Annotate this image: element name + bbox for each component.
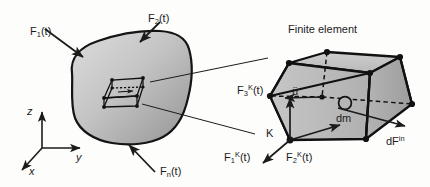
inertial-force-label: dFin: [386, 135, 405, 147]
finite-element-figure: F1(t) F2(t) Fn(t) Finite element F3K(t) …: [0, 0, 430, 187]
axis-label-x: x: [29, 166, 35, 177]
finite-element-caption: Finite element: [288, 24, 357, 35]
force-label-F1: F1(t): [30, 26, 51, 38]
mass-element-label: dm: [336, 113, 351, 124]
acceleration-vector: [285, 97, 322, 98]
axis-label-y: y: [76, 152, 82, 163]
body-outline: [72, 31, 192, 145]
nodal-force-label-F3K: F3K(t): [237, 84, 263, 98]
figure-canvas: [0, 0, 430, 187]
force-label-F2: F2(t): [148, 13, 169, 25]
nodal-force-label-F1K: F1K(t): [224, 151, 250, 165]
nodal-force-label-F2K: F2K(t): [286, 151, 312, 165]
force-label-Fn: Fn(t): [160, 166, 181, 178]
coordinate-axes: [22, 112, 80, 170]
acceleration-label: ü: [292, 86, 298, 97]
mass-element-marker: [339, 97, 352, 110]
axis-label-z: z: [27, 106, 33, 117]
node-label-K: K: [266, 128, 273, 139]
